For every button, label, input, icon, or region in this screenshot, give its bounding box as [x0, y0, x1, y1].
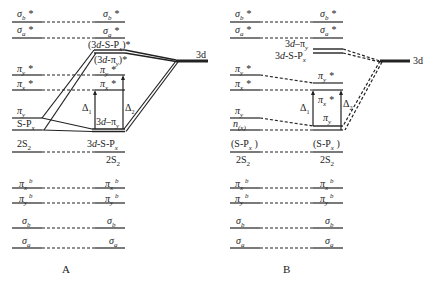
- label-a-3d-spx-star: (3d-S-Px)*: [88, 40, 131, 54]
- label-b-left-spx: (S-Px ): [231, 139, 258, 153]
- label-a-left-sigma-a-star: σa *: [17, 25, 33, 39]
- label-b-3d: 3d: [413, 56, 423, 66]
- label-b-left-sigma-a: σa: [236, 236, 244, 250]
- label-b-left-pi-y-star: πy *: [235, 64, 251, 78]
- label-a-right-2s2: 2S2: [106, 155, 120, 169]
- label-a-right-sigma-b-star: σb *: [103, 9, 119, 23]
- label-a-right-pi-y-b: πy b: [105, 191, 118, 208]
- label-b-delta1: Δ1: [300, 103, 309, 117]
- label-a-left-pi-x-star: πx *: [17, 79, 33, 93]
- label-a-left-sigma-b-star: σb *: [17, 9, 33, 23]
- caption-a: A: [62, 263, 70, 275]
- label-a-right-pi-x-star: πx *: [100, 79, 116, 93]
- label-b-left-sigma-b-star: σb *: [235, 9, 251, 23]
- label-a-3d: 3d: [196, 50, 206, 60]
- label-b-left-pi-y-b: πy b: [235, 191, 248, 208]
- label-b-delta2: Δ2: [343, 99, 352, 113]
- label-b-left-pi-x-star: πx *: [235, 79, 251, 93]
- label-a-right-sigma-a-star: σa *: [103, 26, 119, 40]
- label-a-3d-spx: 3d-S-Px: [87, 139, 118, 153]
- label-a-3d-piy: 3d–πy: [96, 117, 119, 131]
- label-a-delta2: Δ2: [125, 103, 134, 117]
- label-b-left-2s2: 2S2: [236, 155, 250, 169]
- label-a-delta1: Δ1: [82, 103, 91, 117]
- label-b-left-sigma-b: σb: [236, 216, 244, 230]
- label-b-left-n-x: n(x): [233, 119, 246, 133]
- label-b-right-sigma-b: σb: [325, 216, 333, 230]
- caption-b: B: [283, 263, 290, 275]
- label-b-left-sigma-a-star: σa *: [235, 25, 251, 39]
- label-b-right-spx: (S-Px ): [313, 139, 340, 153]
- label-a-right-sigma-a: σa: [109, 236, 117, 250]
- label-a-left-2s2: 2S2: [17, 139, 31, 153]
- label-b-right-pi-y-b: πy b: [320, 191, 333, 208]
- label-a-left-pi-y-star: πy *: [17, 64, 33, 78]
- label-b-right-sigma-a: σa: [325, 236, 333, 250]
- label-b-right-sigma-b-star: σb *: [320, 9, 336, 23]
- label-a-right-pi-y-star: πy *: [100, 65, 116, 79]
- label-a-left-sigma-b: σb: [22, 216, 30, 230]
- label-b-3d-spx: 3d-S-Px: [275, 51, 306, 65]
- mo-diagram-lines: [0, 0, 436, 284]
- label-b-right-2s2: 2S2: [320, 155, 334, 169]
- label-a-left-sigma-a: σa: [22, 236, 30, 250]
- label-b-right-pi-y-star: πy *: [318, 71, 334, 85]
- label-a-right-sigma-b: σb: [107, 216, 115, 230]
- label-a-left-spx: S-Px: [17, 119, 35, 133]
- label-b-right-pi-y: πy: [323, 113, 331, 127]
- label-b-right-pi-x-star: πx *: [318, 95, 334, 109]
- label-b-right-sigma-a-star: σa *: [320, 25, 336, 39]
- label-a-left-pi-y-b: πy b: [19, 191, 32, 208]
